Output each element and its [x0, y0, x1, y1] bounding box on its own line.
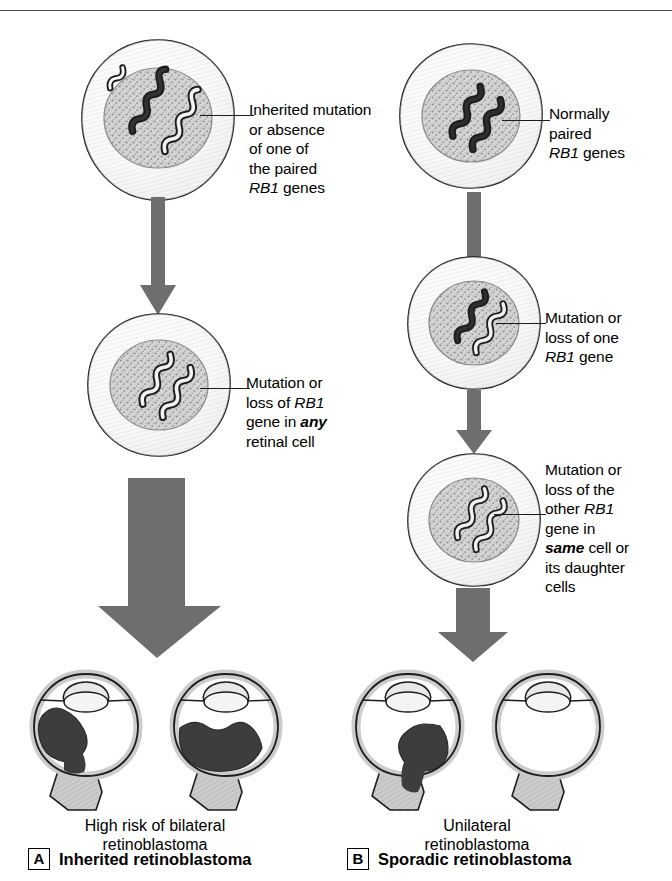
panel-label-a: A Inherited retinoblastoma [28, 848, 252, 870]
callout-b3-line1: Mutation or [545, 460, 629, 480]
cell-a-step-1 [76, 36, 240, 204]
callout-a2-line4: retinal cell [246, 432, 327, 452]
panel-title-b: Sporadic retinoblastoma [378, 850, 571, 869]
panel-letter-a: A [28, 848, 50, 870]
callout-a1-line3: of one of [249, 139, 371, 159]
top-rule [0, 10, 672, 11]
leader-line-a1 [200, 115, 254, 116]
callout-a2-line1: Mutation or [246, 373, 327, 393]
panel-letter-b: B [347, 848, 369, 870]
cell-a-step-2 [84, 310, 234, 460]
callout-a-step-1: Inherited mutation or absence of one of … [249, 100, 371, 198]
arrow-b-step-3-to-outcome [434, 588, 512, 664]
callout-b2-line1: Mutation or [545, 308, 621, 328]
leader-line-a2 [200, 388, 250, 389]
callout-b3-line7: cells [545, 577, 629, 597]
callout-a1-line4: the paired [249, 159, 371, 179]
retinoblastoma-figure: Inherited mutation or absence of one of … [0, 0, 672, 881]
callout-b3-line5: same cell or [545, 538, 629, 558]
callout-b3-line2: loss of the [545, 480, 629, 500]
callout-b1-line1: Normally [549, 104, 625, 124]
panel-title-a: Inherited retinoblastoma [59, 850, 252, 869]
gene-name-rb1: RB1 [584, 500, 614, 517]
leader-line-b3 [494, 514, 546, 515]
callout-b-step-1: Normally paired RB1 genes [549, 104, 625, 163]
cell-b-step-1 [396, 40, 546, 192]
callout-b-step-3: Mutation or loss of the other RB1 gene i… [545, 460, 629, 597]
arrow-b-step-2-to-3 [452, 390, 496, 456]
eye-a-left [24, 664, 148, 814]
arrow-a-step-2-to-outcome [95, 478, 225, 660]
callout-b2-line3: RB1 gene [545, 347, 621, 367]
gene-name-rb1: RB1 [249, 179, 279, 196]
callout-a1-line2: or absence [249, 120, 371, 140]
callout-a1-line1: Inherited mutation [249, 100, 371, 120]
eye-b-left [346, 664, 470, 814]
eye-a-right [164, 664, 288, 814]
callout-a2-line2: loss of RB1 [246, 393, 327, 413]
leader-line-b1 [502, 120, 550, 121]
callout-b1-line2: paired [549, 124, 625, 144]
gene-name-rb1: RB1 [294, 394, 324, 411]
callout-a2-line3: gene in any [246, 412, 327, 432]
callout-b1-line3: RB1 genes [549, 143, 625, 163]
gene-name-rb1: RB1 [545, 348, 575, 365]
callout-b2-line2: loss of one [545, 328, 621, 348]
caption-a-line1: High risk of bilateral [14, 816, 296, 835]
arrow-a-step-1-to-2 [136, 197, 180, 317]
callout-b-step-2: Mutation or loss of one RB1 gene [545, 308, 621, 367]
callout-a1-line5: RB1 genes [249, 178, 371, 198]
gene-name-rb1: RB1 [549, 144, 579, 161]
callout-b3-line3: other RB1 [545, 499, 629, 519]
emphasis-same: same [545, 539, 584, 556]
caption-b-line1: Unilateral [336, 816, 618, 835]
callout-b3-line4: gene in [545, 519, 629, 539]
eye-b-right [486, 664, 610, 814]
leader-line-b2 [496, 323, 546, 324]
callout-a-step-2: Mutation or loss of RB1 gene in any reti… [246, 373, 327, 451]
emphasis-any: any [300, 413, 326, 430]
panel-label-b: B Sporadic retinoblastoma [347, 848, 571, 870]
callout-b3-line6: its daughter [545, 558, 629, 578]
cell-b-step-3 [404, 450, 544, 590]
